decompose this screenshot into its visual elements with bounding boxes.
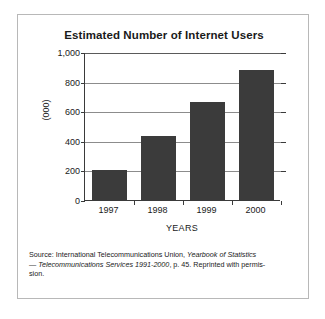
y-axis-tick-label: 1,000 <box>42 48 80 58</box>
caption-line1-prefix: Source: International Telecommunications… <box>29 250 187 259</box>
bar-1997 <box>92 170 127 200</box>
x-axis-tick-label: 2000 <box>231 205 280 215</box>
x-axis-tick-label: 1998 <box>133 205 182 215</box>
bar-slot <box>85 53 134 200</box>
y-axis-tick-label: 600 <box>42 107 80 117</box>
caption-line2-italic: Telecommunications Services 1991-2000 <box>38 260 169 269</box>
y-axis-tick-right <box>281 83 286 84</box>
x-axis-tick-label: 1997 <box>84 205 133 215</box>
source-caption: Source: International Telecommunications… <box>29 250 301 279</box>
bar-2000 <box>239 70 274 200</box>
figure-frame: Estimated Number of Internet Users (000)… <box>17 14 309 299</box>
y-axis-tick <box>81 201 85 202</box>
y-axis-tick-label: 400 <box>42 137 80 147</box>
x-axis-tick-labels: 1997199819992000 <box>84 205 280 219</box>
bar-1999 <box>190 102 225 200</box>
chart-title: Estimated Number of Internet Users <box>18 29 310 41</box>
caption-line2-dash: — <box>29 260 38 269</box>
y-axis-tick-label: 200 <box>42 166 80 176</box>
caption-line1-italic: Yearbook of Statistics <box>187 250 256 259</box>
y-axis-tick-label: 0 <box>42 196 80 206</box>
x-axis-tick-label: 1999 <box>182 205 231 215</box>
bar-1998 <box>141 136 176 200</box>
bar-slot <box>183 53 232 200</box>
y-axis-tick-label: 800 <box>42 78 80 88</box>
y-axis-tick-labels: 02004006008001,000 <box>42 53 80 201</box>
bar-slot <box>232 53 281 200</box>
bar-series <box>85 53 281 200</box>
caption-line2-suffix: , p. 45. Reprinted with permis- <box>169 260 265 269</box>
x-axis-tick <box>281 201 282 205</box>
caption-line3: sion. <box>29 269 44 278</box>
x-axis-label: YEARS <box>84 223 280 233</box>
plot-area <box>84 53 280 201</box>
y-axis-tick-right <box>281 53 286 54</box>
y-axis-tick-right <box>281 112 286 113</box>
y-axis-tick-right <box>281 171 286 172</box>
y-axis-tick-right <box>281 142 286 143</box>
bar-slot <box>134 53 183 200</box>
chart-area: (000) 02004006008001,000 199719981999200… <box>18 53 310 245</box>
